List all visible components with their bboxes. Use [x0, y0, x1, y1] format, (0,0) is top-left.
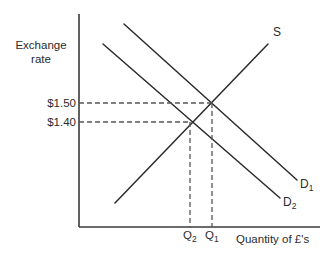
demand-curve-d2	[103, 44, 280, 198]
x-tick-label-q1-subscript: 1	[214, 234, 219, 244]
y-axis-title: Exchange rate	[6, 38, 76, 66]
curve-label-demand-2-base: D	[283, 195, 292, 209]
supply-demand-chart: Exchange rate $1.50 $1.40 Q2 Q1 Quantity…	[0, 0, 328, 254]
demand-curve-d1	[124, 24, 297, 180]
curve-label-demand-2-subscript: 2	[292, 201, 297, 211]
x-tick-label-q2-subscript: 2	[192, 234, 197, 244]
curve-label-demand-1-subscript: 1	[309, 183, 314, 193]
x-tick-label-q2-base: Q	[183, 229, 192, 241]
x-tick-label-q2: Q2	[183, 229, 197, 243]
x-axis-title: Quantity of £'s	[236, 233, 309, 246]
y-axis-title-line2: rate	[6, 52, 76, 66]
curve-label-supply: S	[273, 26, 281, 39]
curve-label-demand-1-base: D	[300, 177, 309, 191]
x-tick-label-q1: Q1	[205, 229, 219, 243]
y-tick-label-price-high: $1.50	[6, 97, 76, 110]
y-axis-title-line1: Exchange	[6, 38, 76, 52]
curve-label-demand-2: D2	[283, 196, 296, 210]
curve-label-demand-1: D1	[300, 178, 313, 192]
y-tick-label-price-low: $1.40	[6, 116, 76, 129]
x-tick-label-q1-base: Q	[205, 229, 214, 241]
supply-curve-s	[115, 44, 268, 203]
